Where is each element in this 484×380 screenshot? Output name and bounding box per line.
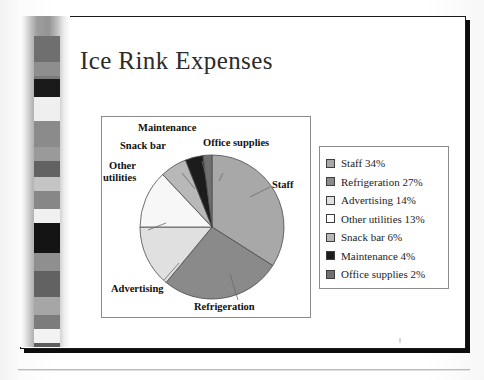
filmstrip-block bbox=[34, 315, 60, 329]
filmstrip-block bbox=[34, 343, 60, 347]
page-rule-line-soft bbox=[18, 370, 470, 371]
legend-item[interactable]: Other utilities 13% bbox=[326, 210, 448, 229]
chart-legend: Staff 34%Refrigeration 27%Advertising 14… bbox=[319, 146, 449, 289]
pie-slice-group bbox=[140, 155, 284, 299]
filmstrip-block bbox=[34, 209, 60, 223]
pie-label-office-supplies: Office supplies bbox=[203, 137, 269, 149]
filmstrip-block bbox=[34, 79, 60, 97]
scanned-page: Ice Rink Expenses bbox=[0, 0, 484, 380]
pie-label-snack-bar: Snack bar bbox=[120, 140, 166, 152]
legend-color-swatch bbox=[326, 214, 335, 223]
legend-color-swatch bbox=[326, 159, 335, 168]
legend-item-label: Maintenance 4% bbox=[341, 250, 415, 262]
scan-speck bbox=[399, 338, 401, 343]
pie-label-staff: Staff bbox=[272, 179, 294, 191]
pie-label-refrigeration: Refrigeration bbox=[194, 301, 255, 313]
chart-container: Maintenance Office supplies Snack bar Ot… bbox=[101, 116, 311, 318]
legend-item[interactable]: Maintenance 4% bbox=[326, 247, 448, 266]
legend-color-swatch bbox=[326, 177, 335, 186]
filmstrip-block bbox=[34, 36, 60, 62]
legend-item-label: Snack bar 6% bbox=[341, 231, 402, 243]
filmstrip-block bbox=[34, 177, 60, 191]
legend-color-swatch bbox=[326, 196, 335, 205]
presentation-slide: Ice Rink Expenses bbox=[20, 16, 466, 349]
pie-label-other-utilities-line1: Other bbox=[109, 160, 136, 172]
legend-item-label: Refrigeration 27% bbox=[341, 176, 423, 188]
filmstrip-block bbox=[34, 329, 60, 343]
decorative-filmstrip-border bbox=[20, 16, 70, 347]
legend-item-label: Office supplies 2% bbox=[341, 268, 425, 280]
legend-item[interactable]: Snack bar 6% bbox=[326, 228, 448, 247]
legend-item-label: Other utilities 13% bbox=[341, 213, 425, 225]
filmstrip-block bbox=[34, 97, 60, 121]
legend-color-swatch bbox=[326, 251, 335, 260]
pie-label-advertising: Advertising bbox=[111, 283, 164, 295]
legend-color-swatch bbox=[326, 270, 335, 279]
legend-item-label: Staff 34% bbox=[341, 157, 385, 169]
legend-row-list: Staff 34%Refrigeration 27%Advertising 14… bbox=[326, 154, 448, 284]
filmstrip-block bbox=[34, 191, 60, 209]
pie-label-maintenance: Maintenance bbox=[138, 122, 196, 134]
pie-label-other-utilities-line2: utilities bbox=[103, 172, 136, 184]
filmstrip-block bbox=[34, 271, 60, 297]
filmstrip-block bbox=[34, 121, 60, 147]
legend-item[interactable]: Advertising 14% bbox=[326, 191, 448, 210]
filmstrip-block bbox=[34, 253, 60, 271]
legend-item[interactable]: Staff 34% bbox=[326, 154, 448, 173]
filmstrip-block bbox=[34, 147, 60, 161]
filmstrip-block bbox=[34, 297, 60, 315]
legend-item[interactable]: Office supplies 2% bbox=[326, 265, 448, 284]
legend-item-label: Advertising 14% bbox=[341, 194, 416, 206]
legend-item[interactable]: Refrigeration 27% bbox=[326, 173, 448, 192]
filmstrip-block bbox=[34, 62, 60, 76]
legend-color-swatch bbox=[326, 233, 335, 242]
filmstrip-block bbox=[34, 223, 60, 253]
slide-title: Ice Rink Expenses bbox=[80, 47, 273, 75]
filmstrip-block bbox=[34, 161, 60, 177]
